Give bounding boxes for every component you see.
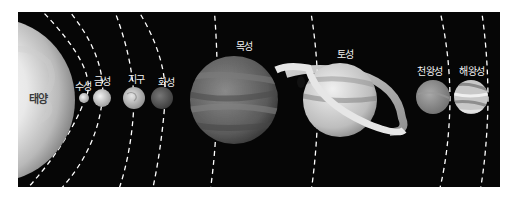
planet-neptune (454, 80, 488, 114)
solar-system-panel: 태양 수성 금성 지구 화성 목성 토성 천왕성 해왕성 (18, 12, 500, 187)
planet-mars (151, 87, 173, 109)
label-uranus: 천왕성 (417, 67, 443, 77)
label-venus: 금성 (94, 77, 111, 87)
label-sun: 태양 (29, 95, 48, 105)
label-neptune: 해왕성 (459, 67, 485, 77)
planet-mercury (79, 93, 89, 103)
label-jupiter: 목성 (236, 42, 253, 52)
label-saturn: 토성 (337, 50, 354, 60)
label-mercury: 수성 (75, 82, 92, 92)
planet-earth (123, 87, 145, 109)
planet-saturn (276, 63, 404, 137)
label-mars: 화성 (158, 78, 175, 88)
planet-uranus (416, 80, 450, 114)
label-earth: 지구 (128, 75, 145, 85)
planet-jupiter (188, 56, 280, 144)
solar-system-illustration (18, 12, 500, 187)
planet-venus (93, 89, 111, 107)
